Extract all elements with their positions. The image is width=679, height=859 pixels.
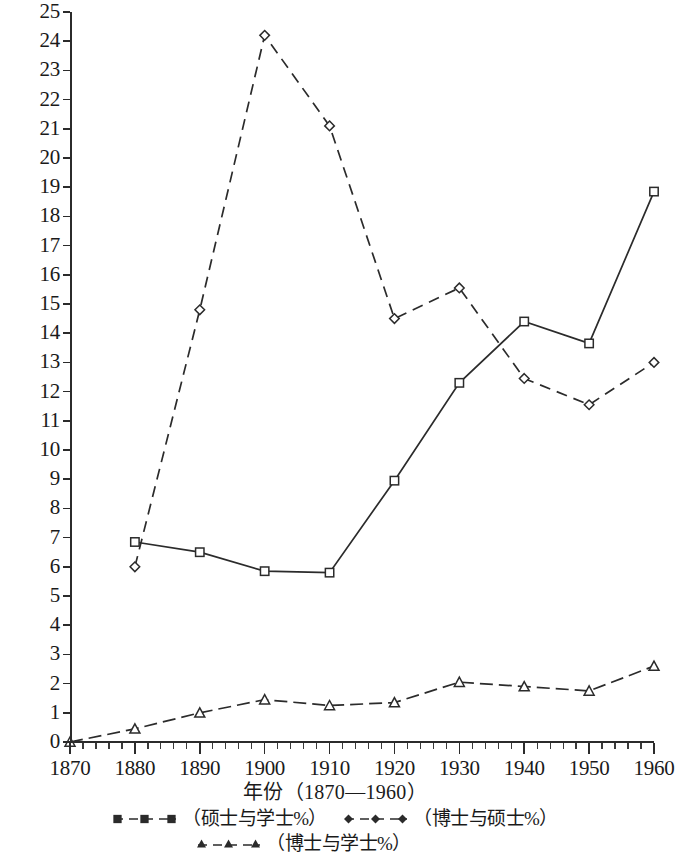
y-axis-tick-label: 2 [14,673,60,694]
y-axis-tick [63,478,70,480]
y-axis-tick-label: 10 [14,439,60,460]
diamond-marker-icon [260,31,270,41]
y-axis-tick-label: 12 [14,381,60,402]
x-axis-minor-tick [147,743,148,749]
y-axis-tick [63,712,70,714]
x-axis-minor-tick [511,743,512,749]
y-axis-tick [63,449,70,451]
series-3 [65,661,659,746]
square-marker-icon [112,811,178,827]
y-axis-tick-label: 5 [14,585,60,606]
y-axis-tick-label: 4 [14,614,60,635]
legend-entry-doctors-bachelors[interactable]: （博士与学士%） [196,831,411,856]
x-axis-minor-tick [355,743,356,749]
y-axis-tick [63,508,70,510]
x-axis-tick [134,743,136,754]
x-axis-minor-tick [251,743,252,749]
y-axis-tick-label: 25 [14,1,60,22]
y-axis-tick [63,70,70,72]
legend-entry-masters-bachelors[interactable]: （硕士与学士%） [112,806,327,831]
square-marker-icon [196,548,204,556]
legend-label-doctors-bachelors: （博士与学士%） [266,831,411,856]
x-axis-tick [69,743,71,754]
legend-label-masters-bachelors: （硕士与学士%） [182,806,327,831]
x-axis-tick [523,743,525,754]
y-axis-tick [63,566,70,568]
x-axis-minor-tick [160,743,161,749]
x-axis-minor-tick [173,743,174,749]
y-axis-tick [63,274,70,276]
y-axis-tick [63,391,70,393]
x-axis-minor-tick [316,743,317,749]
y-axis-tick [63,537,70,539]
y-axis-tick-label: 8 [14,497,60,518]
x-axis-tick [264,743,266,754]
y-axis-tick [63,216,70,218]
y-axis-tick-label: 17 [14,235,60,256]
x-axis-minor-tick [614,743,615,749]
square-marker-icon [585,339,593,347]
diamond-marker-icon [195,305,205,315]
y-axis-tick [63,99,70,101]
x-axis-minor-tick [290,743,291,749]
plot-area: 1870188018901900191019201930194019501960 [70,12,654,742]
x-axis-minor-tick [225,743,226,749]
y-axis-tick-label: 23 [14,59,60,80]
y-axis-tick [63,654,70,656]
x-axis-minor-tick [498,743,499,749]
y-axis-tick-label: 24 [14,30,60,51]
y-axis-tick-label: 7 [14,527,60,548]
y-axis-tick [63,595,70,597]
y-axis-tick [63,11,70,13]
x-axis-minor-tick [303,743,304,749]
legend-label-doctors-masters: （博士与硕士%） [413,806,558,831]
y-axis-line [70,12,72,742]
y-axis-tick-label: 3 [14,643,60,664]
diamond-marker-icon [519,374,529,384]
x-axis-minor-tick [420,743,421,749]
x-axis-minor-tick [368,743,369,749]
y-axis-tick-label: 20 [14,147,60,168]
y-axis-tick [63,332,70,334]
x-axis-minor-tick [186,743,187,749]
x-axis-minor-tick [407,743,408,749]
diamond-marker-icon [130,562,140,572]
y-axis-tick-label: 15 [14,293,60,314]
y-axis-tick-label: 18 [14,205,60,226]
y-axis-tick-label: 22 [14,89,60,110]
y-axis-tick [63,303,70,305]
y-axis-tick-label: 21 [14,118,60,139]
x-axis-tick [394,743,396,754]
x-axis-minor-tick [537,743,538,749]
legend-entry-doctors-masters[interactable]: （博士与硕士%） [343,806,558,831]
y-axis-tick-label: 14 [14,322,60,343]
series-line [70,666,654,742]
y-axis-tick-label: 19 [14,176,60,197]
square-marker-icon [390,476,398,484]
x-axis-tick [653,743,655,754]
y-axis-tick-label: 9 [14,468,60,489]
series-plot [70,12,654,742]
y-axis-tick-label: 1 [14,702,60,723]
x-axis-minor-tick [433,743,434,749]
x-axis-minor-tick [238,743,239,749]
y-axis-tick-label: 16 [14,264,60,285]
y-axis-tick [63,420,70,422]
x-axis-tick [459,743,461,754]
x-axis-title: 年份（1870—1960） [0,776,670,805]
y-axis-tick-label: 13 [14,351,60,372]
y-axis-tick-label: 11 [14,410,60,431]
square-marker-icon [650,187,658,195]
x-axis-minor-tick [640,743,641,749]
square-marker-icon [260,567,268,575]
y-axis-tick [63,245,70,247]
x-axis-minor-tick [601,743,602,749]
square-marker-icon [520,317,528,325]
x-axis-minor-tick [472,743,473,749]
diamond-marker-icon [343,811,409,827]
y-axis-tick [63,40,70,42]
x-axis-line [70,741,654,743]
series-line [135,192,654,573]
y-axis-tick-label: 0 [14,731,60,752]
